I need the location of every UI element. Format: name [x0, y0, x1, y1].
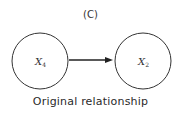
relationship-diagram: X4 X2 — [0, 0, 181, 130]
node-x4-label: X4 — [34, 56, 46, 68]
node-x2-label: X2 — [137, 56, 149, 68]
arrowhead-icon — [105, 57, 113, 63]
edge-x4-to-x2 — [69, 57, 113, 63]
diagram-caption: Original relationship — [0, 95, 181, 108]
node-x2: X2 — [115, 33, 171, 89]
node-x4: X4 — [12, 33, 68, 89]
